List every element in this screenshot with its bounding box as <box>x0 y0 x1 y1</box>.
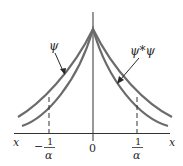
right-marker-denominator: α <box>133 149 141 162</box>
right-marker-numerator: 1 <box>135 136 141 147</box>
psi-label: ψ <box>49 39 59 53</box>
wavefunction-diagram: ψ ψ*ψ x x 0 − 1 α 1 α <box>0 0 183 166</box>
left-marker-denominator: α <box>45 149 53 162</box>
psi-arrow <box>55 53 63 71</box>
left-marker-sign: − <box>34 140 43 153</box>
psi-arrow-head <box>60 68 66 75</box>
x-right-label: x <box>169 136 176 149</box>
psi-star-psi-label: ψ*ψ <box>130 44 155 58</box>
psi-curve <box>18 29 172 117</box>
psi-star-psi-arrow <box>121 58 139 79</box>
left-marker-numerator: 1 <box>47 136 53 147</box>
origin-label: 0 <box>89 142 96 155</box>
x-left-label: x <box>13 136 20 149</box>
